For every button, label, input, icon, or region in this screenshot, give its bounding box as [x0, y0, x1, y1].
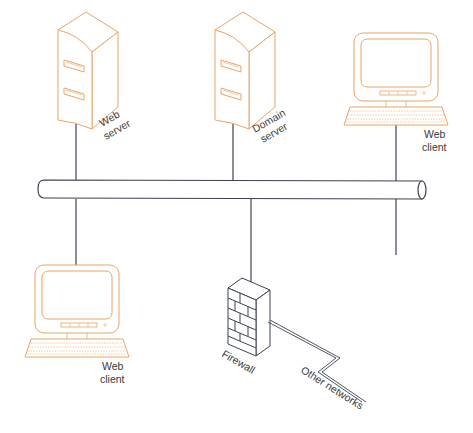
network-diagram: Web server Domain server Web client Web … — [0, 0, 473, 433]
web-client-bottom-left-label-line2: client — [100, 373, 125, 385]
network-bus — [38, 180, 426, 199]
other-networks-label: Other networks — [299, 364, 366, 412]
web-client-top-right-icon — [344, 33, 448, 125]
web-client-top-right-label-line1: Web — [424, 128, 446, 140]
firewall-icon — [228, 278, 270, 356]
domain-server-icon — [215, 12, 275, 129]
web-client-bottom-left-label-line1: Web — [102, 360, 124, 372]
web-client-top-right-label-line2: client — [422, 141, 447, 153]
web-client-bottom-left-icon — [25, 265, 129, 357]
lightning-link-icon — [268, 320, 366, 402]
connector-lines — [76, 124, 396, 286]
